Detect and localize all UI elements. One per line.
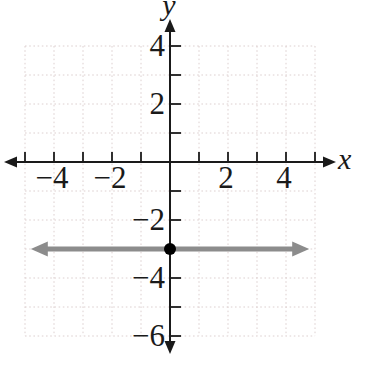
y-tick-label: 4 (150, 28, 166, 63)
x-axis-label: x (337, 142, 352, 175)
graph-figure: −4−22442−2−4−6xy (0, 0, 366, 365)
x-tick-label: −4 (36, 160, 69, 195)
y-tick-label: −4 (132, 260, 165, 295)
y-tick-label: 2 (150, 86, 166, 121)
x-tick-label: 4 (276, 160, 292, 195)
plotted-point (164, 243, 176, 255)
coordinate-plane: −4−22442−2−4−6xy (0, 0, 366, 365)
x-axis-left-arrow-icon (4, 157, 17, 168)
x-axis-right-arrow-icon (323, 157, 336, 168)
y-axis-label: y (159, 0, 176, 21)
y-tick-label: −2 (132, 202, 165, 237)
plotted-line-right-arrow-icon (292, 242, 309, 257)
plotted-line-left-arrow-icon (31, 242, 48, 257)
x-tick-label: 2 (218, 160, 234, 195)
y-tick-label: −6 (132, 318, 165, 353)
x-tick-label: −2 (94, 160, 127, 195)
y-axis-bottom-arrow-icon (165, 341, 176, 354)
